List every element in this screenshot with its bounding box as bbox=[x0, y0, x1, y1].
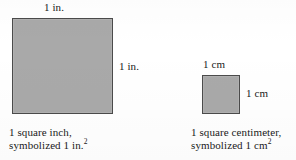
square-inch-caption-line-2: symbolized 1 in.2 bbox=[9, 139, 87, 152]
square-inch-shape bbox=[12, 18, 113, 114]
square-centimeter-caption-line-2: symbolized 1 cm2 bbox=[191, 139, 281, 152]
square-centimeter-right-dimension-label: 1 cm bbox=[246, 87, 268, 99]
square-inch-exponent: 2 bbox=[84, 137, 88, 146]
square-inch-caption-line-1: 1 square inch, bbox=[9, 126, 87, 139]
square-inch-caption: 1 square inch, symbolized 1 in.2 bbox=[9, 126, 87, 151]
square-inch-right-dimension-label: 1 in. bbox=[119, 60, 139, 72]
square-centimeter-caption: 1 square centimeter, symbolized 1 cm2 bbox=[191, 126, 281, 151]
square-centimeter-exponent: 2 bbox=[268, 137, 272, 146]
square-centimeter-shape bbox=[202, 75, 240, 114]
square-centimeter-symbol-text: symbolized 1 cm bbox=[191, 139, 268, 151]
square-inch-top-dimension-label: 1 in. bbox=[44, 1, 64, 13]
square-centimeter-top-dimension-label: 1 cm bbox=[203, 58, 225, 70]
square-inch-symbol-text: symbolized 1 in. bbox=[9, 139, 84, 151]
square-units-figure: 1 in. 1 in. 1 square inch, symbolized 1 … bbox=[0, 0, 296, 160]
